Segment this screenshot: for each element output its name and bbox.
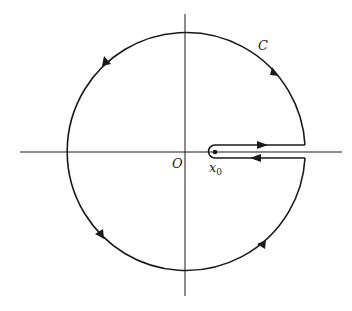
contour-label: C [258,39,268,52]
arrow-cut-lower-icon [250,154,261,162]
branch-point-dot [213,150,218,155]
arrow-cut-upper-icon [257,141,268,149]
origin-label: O [172,157,183,170]
branch-point-label-sub: 0 [216,167,222,177]
branch-point-label: x0 [209,161,222,177]
arrow-lower-right-icon [257,240,266,249]
contour-diagram: C O x0 [0,0,352,311]
